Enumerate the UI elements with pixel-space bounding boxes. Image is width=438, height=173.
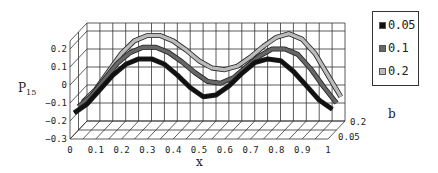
svg-text:0.6: 0.6 [217, 145, 233, 155]
svg-text:0.4: 0.4 [165, 145, 181, 155]
svg-text:0: 0 [67, 145, 72, 155]
svg-text:0: 0 [62, 80, 67, 90]
chart-legend: 0.05 0.1 0.2 [372, 11, 419, 86]
svg-text:0.2: 0.2 [51, 44, 67, 54]
x-axis-ticks: 00.10.20.30.40.50.60.70.80.91 [67, 145, 330, 155]
chart-series [74, 34, 341, 113]
legend-swatch-0.1 [379, 45, 386, 52]
legend-item: 0.1 [379, 41, 408, 55]
svg-text:0.8: 0.8 [268, 145, 284, 155]
svg-text:0.2: 0.2 [350, 117, 366, 127]
svg-text:0.7: 0.7 [242, 145, 258, 155]
legend-item: 0.2 [379, 64, 408, 78]
svg-text:0.05: 0.05 [338, 132, 360, 142]
svg-text:−0.1: −0.1 [45, 98, 67, 108]
legend-swatch-0.2 [379, 68, 386, 75]
svg-text:0.2: 0.2 [113, 145, 129, 155]
legend-swatch-0.05 [379, 22, 386, 29]
z-axis-label: b [388, 107, 396, 121]
legend-item: 0.05 [379, 18, 415, 32]
x-axis-label: x [196, 155, 203, 169]
y-axis-label: P15 [18, 81, 36, 97]
svg-text:0.3: 0.3 [139, 145, 155, 155]
svg-text:0.1: 0.1 [51, 62, 67, 72]
svg-text:0.1: 0.1 [88, 145, 104, 155]
svg-text:−0.3: −0.3 [45, 134, 67, 144]
svg-text:−0.2: −0.2 [45, 116, 67, 126]
y-axis-ticks: 0.20.10−0.1−0.2−0.3 [45, 44, 67, 144]
svg-text:1: 1 [325, 145, 330, 155]
svg-text:0.5: 0.5 [191, 145, 207, 155]
svg-text:0.9: 0.9 [294, 145, 310, 155]
